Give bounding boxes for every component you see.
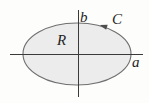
ellipse-region-diagram: R C b a — [0, 0, 149, 103]
region-label: R — [56, 32, 66, 48]
y-intercept-label: b — [80, 9, 88, 25]
x-intercept-label: a — [132, 54, 140, 70]
diagram-canvas: R C b a — [0, 0, 149, 103]
curve-label: C — [112, 11, 123, 27]
